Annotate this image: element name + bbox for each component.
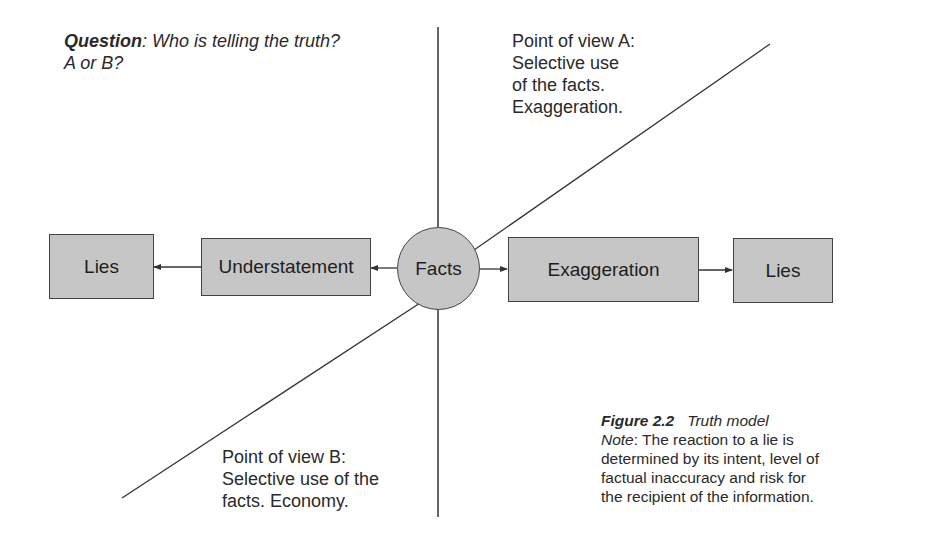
node-label: Lies bbox=[766, 260, 801, 282]
pov-b-line: facts. Economy. bbox=[222, 490, 442, 512]
figure-caption: Figure 2.2 Truth model Note: The reactio… bbox=[601, 411, 921, 506]
node-label: Exaggeration bbox=[548, 259, 660, 281]
question-text: Question: Who is telling the truth? A or… bbox=[64, 30, 340, 74]
note-line: factual inaccuracy and risk for bbox=[601, 468, 921, 487]
node-facts: Facts bbox=[397, 227, 480, 310]
point-of-view-b: Point of view B: Selective use of the fa… bbox=[222, 446, 442, 512]
question-label: Question bbox=[64, 31, 142, 51]
pov-a-line: of the facts. bbox=[512, 74, 712, 96]
note-line: determined by its intent, level of bbox=[601, 449, 921, 468]
node-lies-right: Lies bbox=[733, 238, 833, 303]
note-line: the recipient of the information. bbox=[601, 487, 921, 506]
node-label: Facts bbox=[415, 258, 461, 280]
node-label: Lies bbox=[84, 256, 119, 278]
note-line: : The reaction to a lie is bbox=[634, 431, 794, 448]
pov-b-line: Point of view B: bbox=[222, 446, 442, 468]
pov-b-line: Selective use of the bbox=[222, 468, 442, 490]
node-exaggeration: Exaggeration bbox=[508, 237, 699, 302]
node-lies-left: Lies bbox=[49, 234, 154, 299]
node-label: Understatement bbox=[218, 256, 353, 278]
pov-a-line: Selective use bbox=[512, 52, 712, 74]
question-line1: Who is telling the truth? bbox=[147, 31, 340, 51]
figure-title: Truth model bbox=[687, 412, 769, 429]
figure-label: Figure 2.2 bbox=[601, 412, 674, 429]
question-line2: A or B? bbox=[64, 53, 123, 73]
point-of-view-a: Point of view A: Selective use of the fa… bbox=[512, 30, 712, 118]
node-understatement: Understatement bbox=[201, 238, 371, 296]
pov-a-line: Point of view A: bbox=[512, 30, 712, 52]
note-label: Note bbox=[601, 431, 634, 448]
pov-a-line: Exaggeration. bbox=[512, 96, 712, 118]
